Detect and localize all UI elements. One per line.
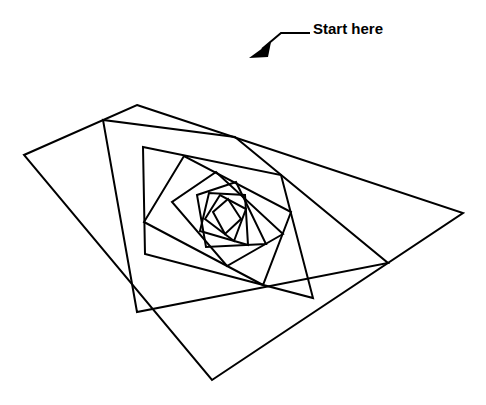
spiral-diagram xyxy=(0,0,486,405)
spiral-polygon-group xyxy=(24,105,463,380)
figure-canvas: Start here xyxy=(0,0,486,405)
start-here-label: Start here xyxy=(313,20,383,37)
spiral-quad-4 xyxy=(172,172,283,266)
annotation-arrow-icon xyxy=(249,42,271,58)
spiral-quad-0 xyxy=(24,105,463,380)
